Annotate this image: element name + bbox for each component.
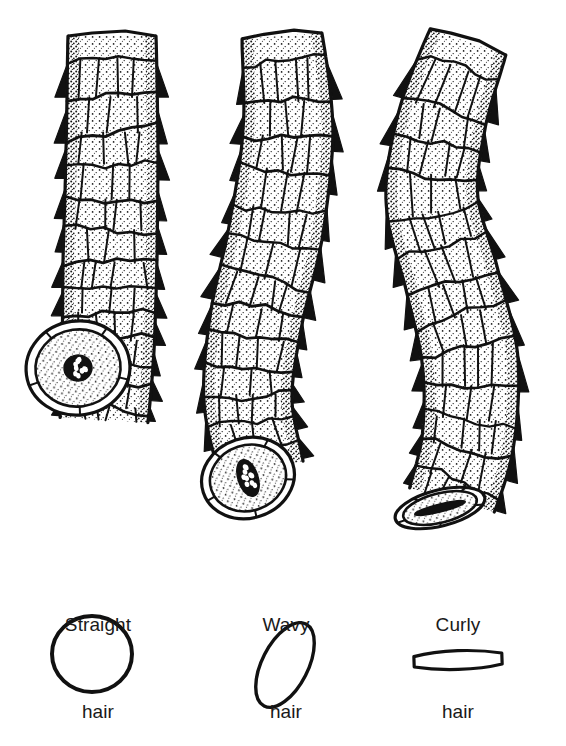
caption-line-secondary: hair	[18, 697, 178, 726]
hair-shaft-curly	[378, 29, 529, 514]
caption-line-primary: Curly	[378, 610, 538, 639]
caption-line-secondary: hair	[378, 697, 538, 726]
hair-morphology-figure: Straight hair Wavy hair Curly hair	[0, 0, 566, 746]
caption-line-primary: Straight	[18, 610, 178, 639]
caption-curly-hair: Curly hair	[378, 552, 538, 746]
cut-end-curly	[391, 479, 489, 536]
caption-line-primary: Wavy	[206, 610, 366, 639]
caption-line-secondary: hair	[206, 697, 366, 726]
caption-straight-hair: Straight hair	[18, 552, 178, 746]
caption-wavy-hair: Wavy hair	[206, 552, 366, 746]
hair-shaft-wavy	[195, 30, 344, 480]
hair-shafts-group	[51, 29, 529, 514]
